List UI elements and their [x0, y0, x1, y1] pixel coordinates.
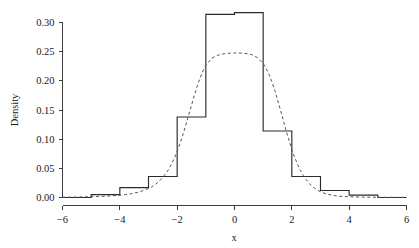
y-tick-group: 0.000.050.100.150.200.250.30 [36, 17, 62, 203]
x-tick-group: −6−4−20246 [57, 206, 409, 226]
y-axis: 0.000.050.100.150.200.250.30 [36, 17, 62, 203]
y-tick-label: 0.20 [36, 75, 54, 86]
density-histogram-figure: Density 0.000.050.100.150.200.250.30 −6−… [0, 0, 419, 248]
x-tick-label: 6 [404, 214, 409, 225]
histogram-outline [63, 13, 407, 198]
x-axis: −6−4−20246 x [57, 206, 409, 244]
y-axis-label: Density [9, 93, 20, 126]
x-tick-label: −6 [57, 214, 68, 225]
x-tick-label: 4 [347, 214, 353, 225]
y-tick-label: 0.05 [36, 163, 54, 174]
x-tick-label: −4 [114, 214, 126, 225]
y-tick-label: 0.15 [36, 105, 54, 116]
density-curve [63, 53, 407, 197]
x-tick-label: 0 [232, 214, 237, 225]
y-tick-label: 0.25 [36, 46, 54, 57]
plot-canvas: Density 0.000.050.100.150.200.250.30 −6−… [0, 0, 419, 248]
y-tick-label: 0.10 [36, 134, 54, 145]
x-tick-label: −2 [172, 214, 183, 225]
y-tick-label: 0.00 [36, 192, 54, 203]
y-tick-label: 0.30 [36, 17, 54, 28]
x-axis-label: x [231, 232, 237, 243]
x-tick-label: 2 [289, 214, 294, 225]
